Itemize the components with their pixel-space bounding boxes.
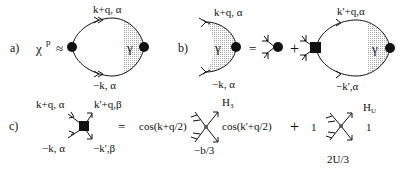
term1-left-factor: cos(k+q/2) <box>139 120 187 133</box>
panel-c: c) k+q, α k'+q,β −k, α −k',β = cos(k+q/2… <box>9 96 376 165</box>
panel-a: a) χ p ≈ γ k+q, α −k, α <box>10 3 149 91</box>
arrow-icon <box>94 17 103 23</box>
chi-superscript: p <box>46 37 51 47</box>
term1-right-factor: cos(k'+q/2) <box>222 120 272 133</box>
interaction-square <box>310 42 321 53</box>
plus-sign: + <box>290 118 299 135</box>
vertex-dot <box>67 42 77 52</box>
panel-b: b) γ k+q, α −k, α = + γ k'+q,α −k',α <box>178 5 395 92</box>
interaction-square <box>79 121 89 131</box>
feynman-diagram: a) χ p ≈ γ k+q, α −k, α b) γ k+q, α −k, … <box>0 0 401 171</box>
arrow-icon <box>262 35 268 41</box>
term2-coefficient: 2U/3 <box>327 153 350 165</box>
term2-right-factor: 1 <box>366 121 372 133</box>
arrow-icon <box>94 71 103 77</box>
bottom-momentum-label: −k, α <box>93 79 116 91</box>
chi-symbol: χ <box>35 41 42 56</box>
equals-sign: = <box>118 119 125 134</box>
gamma-label: γ <box>126 40 133 55</box>
vertex-legs <box>304 40 311 56</box>
approx-sign: ≈ <box>56 41 63 56</box>
top-left-label: k+q, α <box>36 98 65 110</box>
gamma-label: γ <box>214 40 221 55</box>
plus-sign: + <box>290 40 299 57</box>
contact-vertex <box>339 124 343 128</box>
vertex-dot <box>231 42 241 52</box>
arrow-icon <box>191 115 200 139</box>
bottom-left-label: −k, α <box>42 142 65 154</box>
vertex-dot <box>385 43 395 53</box>
contact-vertex <box>204 125 208 129</box>
equals-sign: = <box>249 41 256 56</box>
arrow-icon <box>300 35 306 41</box>
vertex-dot <box>139 42 149 52</box>
vertex-dot <box>273 42 283 52</box>
panel-c-label: c) <box>9 119 18 133</box>
gamma-label: γ <box>371 41 378 56</box>
arrow-icon <box>262 53 268 59</box>
loop-top-label: k'+q,α <box>337 5 365 17</box>
loop-bottom-label: −k',α <box>336 80 358 92</box>
top-momentum-label: k+q, α <box>214 6 243 18</box>
arrow-icon <box>347 113 352 140</box>
term2-left-factor: 1 <box>311 121 317 133</box>
arrow-icon <box>300 55 306 61</box>
arrow-icon <box>213 112 218 142</box>
term1-coefficient: −b/3 <box>194 144 215 156</box>
arrow-icon <box>336 19 341 26</box>
bottom-right-label: −k',β <box>93 142 115 154</box>
top-momentum-label: k+q, α <box>93 3 122 15</box>
panel-b-label: b) <box>178 41 188 55</box>
term2-name: HU <box>363 101 376 115</box>
panel-a-label: a) <box>10 41 19 55</box>
top-right-label: k'+q,β <box>94 98 122 110</box>
bottom-momentum-label: −k, α <box>212 78 235 90</box>
term1-name: H3 <box>222 96 234 110</box>
